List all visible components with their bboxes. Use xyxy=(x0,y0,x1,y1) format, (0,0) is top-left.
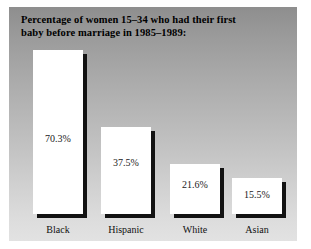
bar-group-white: 21.6% xyxy=(170,164,220,214)
bar-value-asian: 15.5% xyxy=(232,189,282,200)
bar-group-asian: 15.5% xyxy=(232,178,282,214)
bar-value-black: 70.3% xyxy=(33,133,83,144)
bar-black[interactable] xyxy=(33,50,83,214)
bar-group-hispanic: 37.5% xyxy=(101,127,151,214)
bar-label-asian: Asian xyxy=(232,224,282,235)
bar-label-white: White xyxy=(170,224,220,235)
bar-hispanic[interactable] xyxy=(101,127,151,214)
bar-value-white: 21.6% xyxy=(170,179,220,190)
bar-group-black: 70.3% xyxy=(33,50,83,214)
bar-value-hispanic: 37.5% xyxy=(101,157,151,168)
chart-figure: Percentage of women 15–34 who had their … xyxy=(0,0,311,249)
chart-panel: Percentage of women 15–34 who had their … xyxy=(9,7,297,241)
bar-label-black: Black xyxy=(33,224,83,235)
bar-label-hispanic: Hispanic xyxy=(97,224,155,235)
plot-area: 70.3% Black 37.5% Hispanic 21.6% White xyxy=(9,7,297,241)
